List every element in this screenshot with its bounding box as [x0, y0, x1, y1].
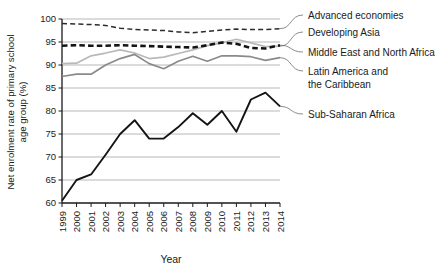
x-tick-label: 2005 — [144, 211, 155, 232]
y-tick-label: 100 — [40, 13, 56, 24]
x-tick-label: 2004 — [129, 211, 140, 232]
x-tick-label: 1999 — [57, 211, 68, 232]
leader-line-middle-east-and-north-africa — [280, 45, 303, 52]
x-tick-label: 2000 — [71, 211, 82, 232]
x-tick-label: 2014 — [275, 211, 286, 232]
legend-leader-lines — [280, 15, 303, 114]
y-tick-label: 85 — [45, 82, 56, 93]
x-tick-label: 2002 — [100, 211, 111, 232]
gridlines — [62, 19, 280, 180]
x-tick-label: 2001 — [86, 211, 97, 232]
series-line-middle-east-and-north-africa — [62, 42, 280, 48]
y-tick-label: 90 — [45, 59, 56, 70]
legend-item-sub-saharan-africa: Sub-Saharan Africa — [308, 109, 395, 120]
y-tick-label: 65 — [45, 174, 56, 185]
y-axis-title-line1: Net enrolment rate of primary school — [5, 34, 16, 189]
x-tick-label: 2009 — [202, 211, 213, 232]
series-line-advanced-economies — [62, 24, 280, 33]
leader-line-advanced-economies — [280, 15, 303, 29]
legend-item-latin-america-caribbean-line2: the Caribbean — [308, 79, 371, 90]
x-axis-ticks: 1999200020012002200320042005200620072008… — [57, 203, 286, 232]
series-line-developing-asia — [62, 39, 280, 63]
x-tick-label: 2012 — [245, 211, 256, 232]
legend-item-latin-america-caribbean: Latin America and — [308, 66, 388, 77]
x-tick-label: 2008 — [187, 211, 198, 232]
y-tick-label: 60 — [45, 197, 56, 208]
chart-container: Net enrolment rate of primary school age… — [0, 0, 442, 272]
x-axis-title: Year — [160, 253, 182, 265]
legend: Advanced economies Developing Asia Middl… — [308, 10, 435, 120]
y-axis-title: Net enrolment rate of primary school age… — [5, 34, 28, 189]
x-tick-label: 2007 — [173, 211, 184, 232]
legend-item-advanced-economies: Advanced economies — [308, 10, 404, 21]
enrolment-line-chart: Net enrolment rate of primary school age… — [0, 0, 442, 272]
series-line-sub-saharan-africa — [62, 93, 280, 201]
y-tick-label: 95 — [45, 36, 56, 47]
legend-item-middle-east-north-africa: Middle East and North Africa — [308, 47, 435, 58]
x-tick-label: 2013 — [260, 211, 271, 232]
y-tick-label: 80 — [45, 105, 56, 116]
x-tick-label: 2006 — [158, 211, 169, 232]
y-axis-title-line2: age group (%) — [17, 82, 28, 143]
y-tick-label: 70 — [45, 151, 56, 162]
leader-line-latin-america-and-the-caribbean — [280, 58, 303, 71]
x-tick-label: 2003 — [115, 211, 126, 232]
leader-line-sub-saharan-africa — [280, 106, 303, 114]
x-tick-label: 2010 — [216, 211, 227, 232]
leader-line-developing-asia — [280, 32, 303, 46]
series-lines — [62, 24, 280, 201]
y-axis-ticks: 6065707580859095100 — [40, 13, 62, 208]
y-tick-label: 75 — [45, 128, 56, 139]
legend-item-developing-asia: Developing Asia — [308, 27, 380, 38]
series-line-latin-america-and-the-caribbean — [62, 54, 280, 76]
x-tick-label: 2011 — [231, 211, 242, 231]
